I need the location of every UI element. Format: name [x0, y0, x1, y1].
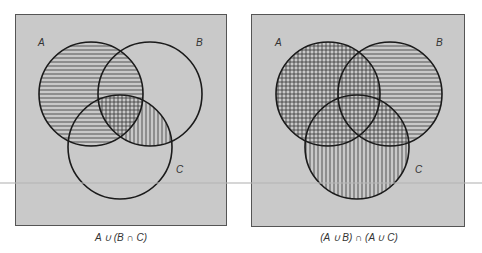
right-caption: (A ∪ B) ∩ (A ∪ C)	[312, 232, 406, 243]
label-b: B	[196, 37, 203, 48]
label-c: C	[415, 164, 422, 175]
scan-line	[0, 182, 482, 184]
label-a: A	[38, 37, 45, 48]
label-a: A	[275, 37, 282, 48]
venn-diagrams	[0, 0, 482, 253]
label-b: B	[436, 37, 443, 48]
label-c: C	[176, 164, 183, 175]
left-caption: A ∪ (B ∩ C)	[91, 232, 151, 243]
right-panel	[251, 14, 465, 227]
